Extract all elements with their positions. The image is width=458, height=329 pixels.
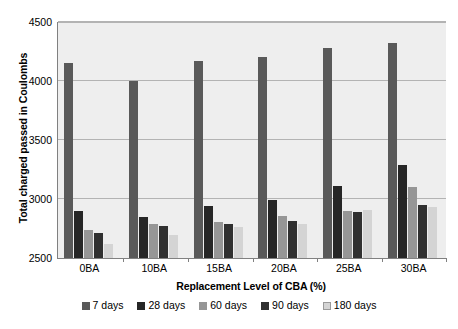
- x-axis-title: Replacement Level of CBA (%): [57, 280, 445, 292]
- bar[interactable]: [214, 222, 223, 258]
- y-axis-tick-label: 3000: [10, 194, 52, 204]
- bar[interactable]: [333, 186, 342, 258]
- legend-item[interactable]: 60 days: [199, 300, 247, 311]
- bar-group: [123, 22, 188, 258]
- bar[interactable]: [104, 244, 113, 258]
- bar[interactable]: [398, 165, 407, 258]
- bar[interactable]: [224, 224, 233, 258]
- chart-legend: 7 days28 days60 days90 days180 days: [0, 300, 458, 311]
- bar[interactable]: [408, 187, 417, 258]
- y-axis-tick-label: 3500: [10, 135, 52, 145]
- bar[interactable]: [149, 224, 158, 258]
- y-axis-tick-label: 4500: [10, 17, 52, 27]
- x-axis-tick-label: 25BA: [316, 262, 381, 274]
- bar-group: [253, 22, 318, 258]
- bar[interactable]: [353, 212, 362, 258]
- bar-group: [58, 22, 123, 258]
- bar[interactable]: [169, 235, 178, 258]
- bar[interactable]: [343, 211, 352, 258]
- legend-item[interactable]: 7 days: [82, 300, 124, 311]
- bar[interactable]: [323, 48, 332, 258]
- bar-chart: Total charged passed in Coulombs 2500300…: [0, 0, 458, 329]
- bar[interactable]: [159, 226, 168, 258]
- x-axis-tick-labels: 0BA10BA15BA20BA25BA30BA: [57, 262, 445, 278]
- legend-label: 180 days: [334, 300, 377, 311]
- bar[interactable]: [129, 81, 138, 258]
- x-axis-tick-mark: [446, 258, 447, 262]
- bar-group: [382, 22, 447, 258]
- x-axis-tick-label: 10BA: [122, 262, 187, 274]
- legend-swatch-icon: [323, 302, 331, 310]
- bar[interactable]: [194, 61, 203, 258]
- legend-item[interactable]: 28 days: [137, 300, 185, 311]
- legend-label: 28 days: [148, 300, 185, 311]
- bar[interactable]: [258, 57, 267, 258]
- y-axis-tick-labels: 25003000350040004500: [10, 15, 52, 265]
- legend-swatch-icon: [199, 302, 207, 310]
- legend-item[interactable]: 180 days: [323, 300, 377, 311]
- legend-label: 90 days: [272, 300, 309, 311]
- legend-label: 7 days: [93, 300, 124, 311]
- legend-swatch-icon: [261, 302, 269, 310]
- bar[interactable]: [84, 230, 93, 258]
- x-axis-tick-label: 30BA: [381, 262, 446, 274]
- legend-item[interactable]: 90 days: [261, 300, 309, 311]
- bar[interactable]: [268, 200, 277, 258]
- y-axis-tick-label: 2500: [10, 253, 52, 263]
- x-axis-tick-label: 0BA: [57, 262, 122, 274]
- bar[interactable]: [204, 206, 213, 258]
- bar[interactable]: [363, 210, 372, 258]
- bar-group: [188, 22, 253, 258]
- bar[interactable]: [94, 233, 103, 258]
- bar[interactable]: [278, 216, 287, 258]
- legend-label: 60 days: [210, 300, 247, 311]
- bar-group: [317, 22, 382, 258]
- bar[interactable]: [64, 63, 73, 258]
- x-axis-tick-label: 15BA: [187, 262, 252, 274]
- legend-swatch-icon: [82, 302, 90, 310]
- bar[interactable]: [288, 221, 297, 258]
- bar[interactable]: [298, 224, 307, 258]
- plot-area: [57, 22, 446, 259]
- bar[interactable]: [418, 205, 427, 258]
- bar[interactable]: [388, 43, 397, 258]
- bar[interactable]: [139, 217, 148, 258]
- legend-swatch-icon: [137, 302, 145, 310]
- bar[interactable]: [428, 207, 437, 258]
- y-axis-tick-label: 4000: [10, 76, 52, 86]
- x-axis-tick-label: 20BA: [252, 262, 317, 274]
- bar[interactable]: [234, 227, 243, 258]
- bar[interactable]: [74, 211, 83, 258]
